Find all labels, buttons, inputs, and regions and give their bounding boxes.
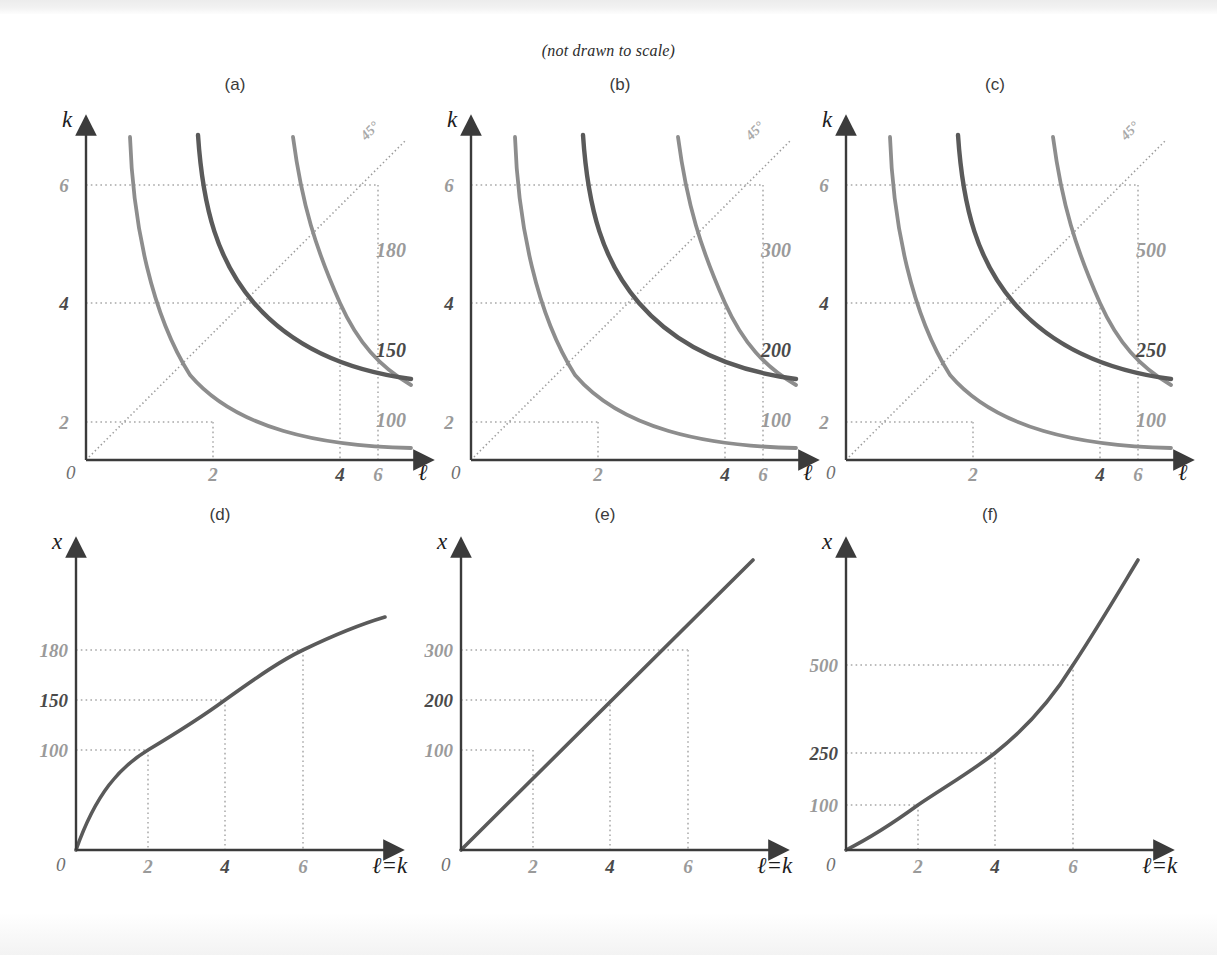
x-axis-label: ℓ=k [757, 853, 793, 878]
y-label-300: 300 [424, 640, 454, 661]
production-curve-concave [76, 617, 385, 850]
panel-e-label: (e) [405, 505, 805, 525]
panel-e-chart: x ℓ=k 0 100 200 300 2 4 6 [405, 505, 805, 905]
x-axis-label: ℓ=k [1142, 853, 1178, 878]
y-label-200: 200 [424, 690, 454, 711]
guide-lines [86, 185, 378, 460]
guide-lines [846, 665, 1073, 850]
panel-b: (b) 45° k ℓ 0 2 4 6 2 [425, 75, 815, 475]
panel-c: (c) 45° k ℓ 0 2 4 6 2 [800, 75, 1190, 475]
x-tick-2: 2 [967, 464, 978, 485]
origin-label: 0 [441, 854, 451, 875]
isoquant-label-250: 250 [1135, 339, 1166, 361]
production-curve-convex [846, 560, 1138, 850]
origin-label: 0 [451, 462, 461, 483]
y-axis-label: k [447, 107, 458, 132]
panel-c-chart: 45° k ℓ 0 2 4 6 2 4 6 500 250 100 [800, 75, 1190, 475]
y-tick-4: 4 [818, 293, 829, 314]
panel-e: (e) x ℓ=k 0 100 200 300 2 4 [405, 505, 805, 905]
y-label-180: 180 [40, 640, 69, 661]
y-tick-2: 2 [443, 412, 454, 433]
y-tick-2: 2 [818, 412, 829, 433]
y-tick-6: 6 [59, 175, 69, 196]
isoquant-curve-100 [515, 137, 796, 448]
x-tick-4: 4 [604, 856, 615, 877]
x-axis-label: ℓ=k [372, 853, 408, 878]
y-label-500: 500 [810, 655, 839, 676]
panel-a: (a) 45° k [40, 75, 430, 475]
origin-label: 0 [826, 462, 836, 483]
y-tick-2: 2 [58, 412, 69, 433]
isoquant-label-150: 150 [376, 339, 406, 361]
x-tick-2: 2 [912, 856, 923, 877]
isoquant-label-500: 500 [1136, 239, 1166, 261]
guide-lines [76, 650, 303, 850]
origin-label: 0 [826, 854, 836, 875]
x-tick-2: 2 [592, 464, 603, 485]
x-tick-2: 2 [207, 464, 218, 485]
x-tick-4: 4 [219, 856, 230, 877]
x-tick-4: 4 [719, 464, 730, 485]
isoquant-label-200: 200 [760, 339, 791, 361]
isoquant-label-100: 100 [1136, 409, 1166, 431]
x-tick-6: 6 [373, 464, 383, 485]
production-curve-linear [461, 560, 753, 850]
scan-band-bottom [0, 913, 1217, 955]
panel-a-chart: 45° k ℓ 0 2 4 6 2 4 6 180 150 100 [40, 75, 430, 475]
y-label-100: 100 [425, 740, 454, 761]
panel-d: (d) x ℓ=k 0 100 150 180 2 4 [20, 505, 420, 905]
guide-lines [471, 185, 763, 460]
x-axis-label: ℓ [1178, 460, 1188, 485]
origin-label: 0 [56, 854, 66, 875]
panel-b-chart: 45° k ℓ 0 2 4 6 2 4 6 300 200 100 [425, 75, 815, 475]
y-tick-6: 6 [444, 175, 454, 196]
guide-lines [461, 650, 688, 850]
panel-f-label: (f) [790, 505, 1190, 525]
y-axis-label: x [436, 529, 448, 554]
panel-a-label: (a) [40, 75, 430, 95]
x-tick-4: 4 [989, 856, 1000, 877]
panel-b-label: (b) [425, 75, 815, 95]
isoquant-label-180: 180 [376, 239, 406, 261]
isoquant-label-100: 100 [376, 409, 406, 431]
y-label-250: 250 [809, 743, 839, 764]
isoquant-curve-100 [130, 137, 411, 448]
x-tick-6: 6 [298, 856, 308, 877]
y-axis-label: x [51, 529, 63, 554]
forty-five-degree-label: 45° [1117, 118, 1142, 143]
y-axis-label: x [821, 529, 833, 554]
isoquant-label-300: 300 [760, 239, 791, 261]
x-tick-6: 6 [1133, 464, 1143, 485]
y-axis-label: k [822, 107, 833, 132]
isoquant-curve-100 [890, 137, 1171, 448]
x-tick-4: 4 [1094, 464, 1105, 485]
y-tick-6: 6 [819, 175, 829, 196]
x-tick-6: 6 [1068, 856, 1078, 877]
x-tick-2: 2 [142, 856, 153, 877]
x-tick-4: 4 [334, 464, 345, 485]
y-axis-label: k [62, 107, 73, 132]
panel-d-chart: x ℓ=k 0 100 150 180 2 4 6 [20, 505, 420, 905]
x-tick-2: 2 [527, 856, 538, 877]
forty-five-degree-label: 45° [357, 118, 382, 143]
y-tick-4: 4 [58, 293, 69, 314]
forty-five-degree-label: 45° [742, 118, 767, 143]
isoquant-label-100: 100 [761, 409, 791, 431]
y-label-100: 100 [810, 795, 839, 816]
guide-lines [846, 185, 1138, 460]
panel-c-label: (c) [800, 75, 1190, 95]
not-to-scale-note: (not drawn to scale) [0, 42, 1217, 60]
panel-f-chart: x ℓ=k 0 100 250 500 2 4 6 [790, 505, 1190, 905]
panel-d-label: (d) [20, 505, 420, 525]
y-label-150: 150 [40, 690, 69, 711]
y-tick-4: 4 [443, 293, 454, 314]
y-label-100: 100 [40, 740, 69, 761]
origin-label: 0 [66, 462, 76, 483]
scan-band-top [0, 0, 1217, 14]
x-tick-6: 6 [758, 464, 768, 485]
panel-f: (f) x ℓ=k 0 100 250 500 2 4 [790, 505, 1190, 905]
x-tick-6: 6 [683, 856, 693, 877]
